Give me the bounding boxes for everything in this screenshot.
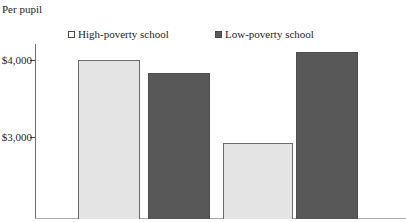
bar-low-poverty-school-1	[148, 73, 210, 219]
bar-low-poverty-school-2	[296, 52, 358, 219]
legend-label: Low-poverty school	[225, 27, 314, 41]
y-axis-line	[35, 44, 36, 219]
bar-high-poverty-school-1	[78, 60, 140, 219]
bar-high-poverty-school-2	[223, 143, 293, 219]
y-tick-label: $4,000	[2, 54, 32, 66]
bar-chart: Per pupil High-poverty school Low-povert…	[0, 0, 406, 222]
plot-area: $4,000 $3,000	[35, 44, 406, 219]
legend-item-high-poverty-school: High-poverty school	[68, 27, 169, 41]
legend-swatch-filled-square-icon	[215, 31, 222, 38]
legend-label: High-poverty school	[78, 27, 169, 41]
legend-swatch-open-square-icon	[68, 31, 75, 38]
legend-item-low-poverty-school: Low-poverty school	[215, 27, 314, 41]
chart-legend: High-poverty school Low-poverty school	[68, 27, 338, 43]
y-axis-title: Per pupil	[2, 3, 42, 16]
y-tick-label: $3,000	[2, 131, 32, 143]
